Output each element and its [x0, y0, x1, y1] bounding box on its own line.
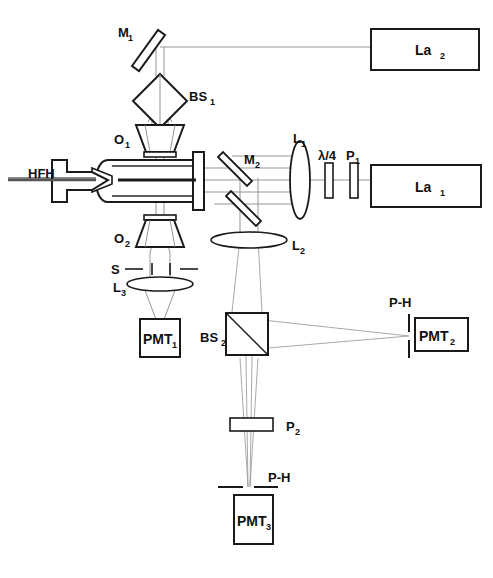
optical-diagram: La 2 La 1 M 1 BS 1 O 1	[0, 0, 493, 578]
polarizer-2-body[interactable]	[230, 418, 273, 431]
pinhole-pmt2-label: P-H	[389, 295, 411, 310]
laser-2-label: La	[415, 42, 432, 58]
mirror-1-sub: 1	[128, 33, 133, 43]
polarizer-1-body[interactable]	[350, 163, 358, 198]
mirror-2-lower-bar[interactable]	[226, 191, 261, 226]
polarizer-2-sub: 2	[295, 427, 300, 437]
pmt-3-label: PMT	[237, 513, 267, 529]
beam-splitter-1[interactable]	[133, 74, 187, 128]
objective-1-body[interactable]	[136, 125, 184, 152]
objective-1[interactable]	[136, 125, 184, 157]
lens-2-label: L	[292, 238, 300, 253]
lens-2-body[interactable]	[211, 232, 287, 248]
mirror-1-body[interactable]	[132, 30, 165, 71]
pmt-2-sub: 2	[450, 337, 455, 347]
polarizer-1-label: P	[346, 148, 355, 163]
lens-1-sub: 1	[301, 139, 306, 149]
pinhole-pmt3-label: P-H	[268, 470, 290, 485]
polarizer-2[interactable]	[230, 418, 273, 431]
diagram-canvas: La 2 La 1 M 1 BS 1 O 1	[0, 0, 493, 578]
pmt-3-sub: 3	[266, 522, 271, 532]
ray-l2-to-bs2-left	[232, 238, 240, 312]
polarizer-1[interactable]	[350, 163, 358, 198]
beam-splitter-2-sub: 2	[221, 338, 226, 348]
lens-3-sub: 3	[121, 288, 126, 298]
polarizer-2-label: P	[286, 419, 295, 434]
objective-1-label: O	[114, 132, 124, 147]
slit-label: S	[111, 262, 120, 277]
photomultiplier-2[interactable]: PMT 2	[415, 318, 468, 351]
mirror-1[interactable]	[132, 30, 165, 71]
beam-splitter-2-label: BS	[200, 330, 218, 345]
mirror-2-label: M	[244, 152, 255, 167]
lens-3-body[interactable]	[127, 277, 193, 291]
photomultiplier-1[interactable]: PMT 1	[140, 319, 180, 357]
lens-1[interactable]	[290, 141, 310, 219]
polarizer-1-sub: 1	[355, 156, 360, 166]
ray-paths	[40, 47, 409, 487]
ray-bs2-to-pmt2-lower	[268, 336, 409, 348]
laser-2[interactable]: La 2	[371, 29, 479, 70]
slit[interactable]	[125, 263, 198, 275]
pmt-2-label: PMT	[419, 328, 449, 344]
mirror-2-sub: 2	[255, 160, 260, 170]
objective-2-sub: 2	[125, 239, 130, 249]
lens-3[interactable]	[127, 277, 193, 291]
objective-2-body[interactable]	[136, 220, 184, 247]
photomultiplier-3[interactable]: PMT 3	[234, 495, 273, 544]
pmt-1-sub: 1	[172, 340, 177, 350]
beam-splitter-1-label: BS	[189, 89, 207, 104]
lens-1-label: L	[293, 131, 301, 146]
quarter-wave-plate-label: λ/4	[318, 148, 337, 163]
laser-1-sub: 1	[440, 188, 445, 198]
objective-1-front-element	[144, 152, 176, 157]
laser-1-label: La	[415, 179, 432, 195]
lens-2[interactable]	[211, 232, 287, 248]
laser-1[interactable]: La 1	[371, 165, 481, 207]
quarter-wave-plate-body[interactable]	[325, 163, 333, 198]
laser-2-sub: 2	[440, 51, 445, 61]
lens-3-label: L	[113, 280, 121, 295]
quarter-wave-plate[interactable]	[325, 163, 333, 198]
objective-2-label: O	[114, 231, 124, 246]
ray-l2-to-bs2-right	[258, 238, 262, 312]
beam-splitter-2[interactable]	[226, 313, 268, 355]
objective-2[interactable]	[136, 215, 184, 247]
hydrodynamic-focusing-head[interactable]	[8, 160, 108, 202]
lens-1-body[interactable]	[290, 141, 310, 219]
hfh-label: HFH	[28, 166, 55, 181]
pmt-1-label: PMT	[143, 331, 173, 347]
objective-1-sub: 1	[125, 140, 130, 150]
flow-chamber[interactable]	[92, 152, 204, 210]
beam-splitter-1-sub: 1	[210, 97, 215, 107]
lens-2-sub: 2	[300, 246, 305, 256]
